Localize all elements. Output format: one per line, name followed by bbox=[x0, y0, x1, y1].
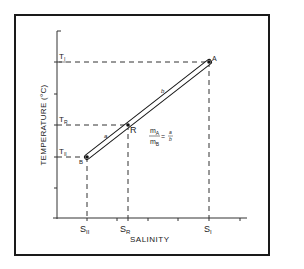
svg-text:TI: TI bbox=[59, 52, 65, 62]
svg-text:a: a bbox=[169, 129, 172, 135]
svg-text:SII: SII bbox=[80, 224, 90, 235]
label-R: R bbox=[130, 125, 137, 135]
diagram-frame bbox=[15, 15, 269, 255]
svg-text:TR: TR bbox=[59, 115, 68, 125]
svg-text:=: = bbox=[161, 133, 165, 140]
svg-text:mB: mB bbox=[150, 138, 160, 147]
mixing-line bbox=[87, 62, 209, 157]
label-B: B bbox=[79, 159, 83, 165]
x-axis-title: SALINITY bbox=[130, 235, 170, 244]
point-A bbox=[207, 60, 211, 64]
mixing-ratio-formula: mA mB = a b bbox=[149, 127, 173, 147]
guide-lines bbox=[57, 62, 209, 218]
svg-text:TII: TII bbox=[59, 147, 67, 157]
svg-text:SR: SR bbox=[120, 224, 131, 235]
x-tick-labels: SII SR SI bbox=[80, 224, 212, 235]
svg-text:mA: mA bbox=[150, 127, 160, 136]
y-tick-labels: TI TR TII bbox=[59, 52, 68, 157]
ts-mixing-diagram: A R B a b TI TR TII SII SR SI SALINITY T… bbox=[0, 0, 304, 269]
svg-text:SI: SI bbox=[204, 224, 212, 235]
y-axis-title: TEMPERATURE (°C) bbox=[39, 84, 48, 165]
label-A: A bbox=[212, 55, 217, 62]
point-B bbox=[85, 155, 89, 159]
svg-text:b: b bbox=[169, 136, 172, 142]
